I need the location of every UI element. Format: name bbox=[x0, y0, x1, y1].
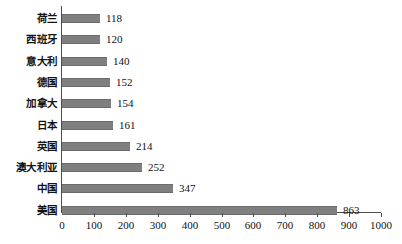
bar-row: 加拿大154 bbox=[0, 94, 402, 113]
bar bbox=[62, 14, 100, 23]
bar-row: 西班牙120 bbox=[0, 30, 402, 49]
bar bbox=[62, 57, 107, 66]
plot-area: 荷兰118西班牙120意大利140德国152加拿大154日本161英国214澳大… bbox=[0, 0, 402, 244]
x-axis-tick-label: 600 bbox=[245, 219, 262, 231]
x-axis-tick bbox=[126, 213, 127, 217]
category-label: 西班牙 bbox=[26, 30, 57, 49]
bar-chart: 荷兰118西班牙120意大利140德国152加拿大154日本161英国214澳大… bbox=[0, 0, 402, 244]
bar bbox=[62, 163, 142, 172]
bar bbox=[62, 78, 110, 87]
x-axis-tick-label: 400 bbox=[182, 219, 199, 231]
category-label: 中国 bbox=[37, 179, 57, 198]
bar-row: 英国214 bbox=[0, 137, 402, 156]
bar-row: 意大利140 bbox=[0, 52, 402, 71]
category-label: 日本 bbox=[37, 116, 57, 135]
x-axis-tick bbox=[94, 213, 95, 217]
x-axis-tick-label: 200 bbox=[118, 219, 135, 231]
x-axis-tick bbox=[381, 213, 382, 217]
category-label: 英国 bbox=[37, 137, 57, 156]
x-axis-tick bbox=[253, 213, 254, 217]
bar-value-label: 152 bbox=[116, 73, 133, 92]
x-axis-tick bbox=[285, 213, 286, 217]
bar bbox=[62, 99, 111, 108]
bar bbox=[62, 121, 113, 130]
x-axis-tick-label: 1000 bbox=[370, 219, 392, 231]
bar-row: 德国152 bbox=[0, 73, 402, 92]
category-label: 加拿大 bbox=[26, 94, 57, 113]
bar-row: 荷兰118 bbox=[0, 9, 402, 28]
category-label: 德国 bbox=[37, 73, 57, 92]
x-axis-tick bbox=[190, 213, 191, 217]
x-axis-tick-label: 100 bbox=[86, 219, 103, 231]
x-axis-tick bbox=[222, 213, 223, 217]
bar-row: 美国863 bbox=[0, 201, 402, 220]
bar bbox=[62, 142, 130, 151]
bar-value-label: 347 bbox=[179, 179, 196, 198]
bar-value-label: 161 bbox=[119, 116, 136, 135]
category-label: 美国 bbox=[37, 201, 57, 220]
category-label: 意大利 bbox=[26, 52, 57, 71]
x-axis-tick bbox=[158, 213, 159, 217]
bar-value-label: 252 bbox=[148, 158, 165, 177]
bar-value-label: 120 bbox=[106, 30, 123, 49]
bar-value-label: 118 bbox=[106, 9, 122, 28]
x-axis-tick-label: 700 bbox=[277, 219, 294, 231]
bar-value-label: 140 bbox=[113, 52, 130, 71]
bar bbox=[62, 184, 173, 193]
category-label: 澳大利亚 bbox=[16, 158, 57, 177]
bar-value-label: 214 bbox=[136, 137, 153, 156]
category-label: 荷兰 bbox=[37, 9, 57, 28]
bar bbox=[62, 206, 337, 215]
bar bbox=[62, 35, 100, 44]
x-axis-tick bbox=[349, 213, 350, 217]
bar-row: 澳大利亚252 bbox=[0, 158, 402, 177]
bar-value-label: 863 bbox=[343, 201, 360, 220]
x-axis-tick-label: 800 bbox=[309, 219, 326, 231]
x-axis-tick-label: 300 bbox=[150, 219, 167, 231]
x-axis-tick-label: 900 bbox=[341, 219, 358, 231]
x-axis-tick-label: 500 bbox=[214, 219, 231, 231]
x-axis-tick-label: 0 bbox=[59, 219, 65, 231]
x-axis-tick bbox=[317, 213, 318, 217]
bar-value-label: 154 bbox=[117, 94, 134, 113]
bar-row: 日本161 bbox=[0, 116, 402, 135]
bar-row: 中国347 bbox=[0, 179, 402, 198]
